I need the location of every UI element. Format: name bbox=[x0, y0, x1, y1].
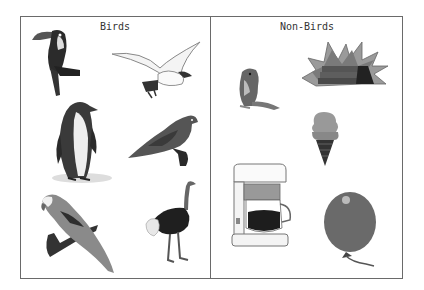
seagull-icon bbox=[112, 38, 204, 100]
toucan-icon bbox=[30, 26, 85, 101]
coffee-maker-icon bbox=[230, 162, 296, 250]
hamster-icon bbox=[234, 66, 284, 112]
parrot-icon bbox=[40, 193, 116, 275]
balloon-icon bbox=[322, 190, 382, 268]
firecracker-bundle-icon bbox=[302, 40, 388, 94]
ostrich-icon bbox=[144, 180, 204, 266]
dove-icon bbox=[128, 110, 202, 168]
non-birds-heading: Non-Birds bbox=[211, 21, 403, 32]
penguin-icon bbox=[46, 98, 116, 184]
ice-cream-cone-icon bbox=[308, 110, 342, 168]
column-divider bbox=[210, 16, 211, 279]
